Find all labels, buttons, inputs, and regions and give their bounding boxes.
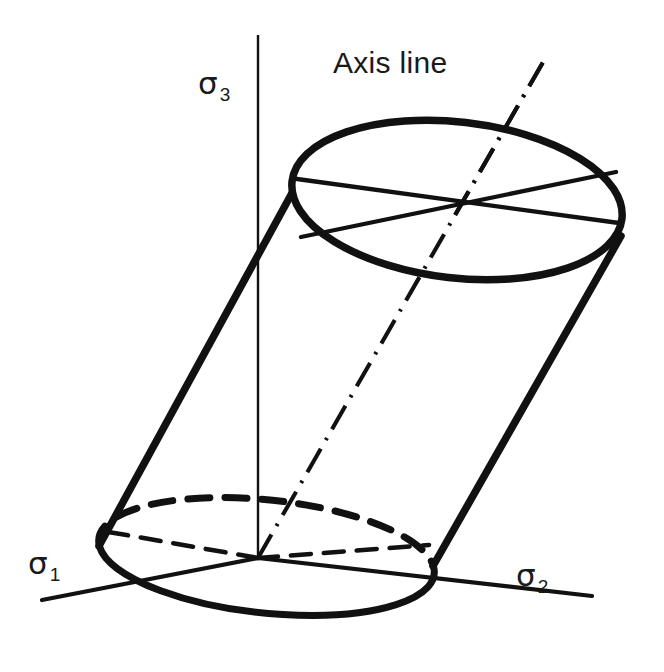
sigma1-subscript: 1 (50, 564, 61, 585)
bottom-disc-radius-right (258, 545, 429, 558)
yield-surface-figure: σ3 σ1 σ2 Axis line (0, 0, 664, 672)
sigma2-symbol: σ (516, 557, 536, 593)
sigma1-axis-label: σ1 (28, 548, 58, 579)
sigma3-axis-label: σ3 (198, 68, 228, 99)
sigma1-axis-line (42, 558, 258, 600)
bottom-disc-radius-left (103, 531, 258, 558)
cylinder-right-wall (433, 236, 621, 566)
cylindrical-yield-surface-diagram (0, 0, 664, 672)
sigma2-axis-label: σ2 (516, 560, 546, 591)
sigma1-symbol: σ (28, 545, 48, 581)
sigma2-subscript: 2 (538, 576, 549, 597)
sigma3-subscript: 3 (220, 84, 231, 105)
axis-line-label: Axis line (333, 48, 447, 78)
cylinder-left-wall (99, 193, 292, 546)
top-disc-chord-lower (301, 172, 616, 237)
top-disc-chord-upper (297, 179, 619, 223)
sigma3-symbol: σ (198, 65, 218, 101)
